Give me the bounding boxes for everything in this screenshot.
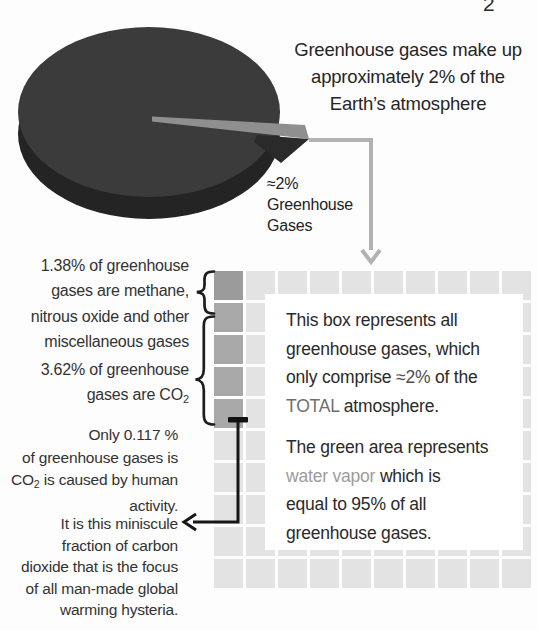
info-text: only comprise	[286, 367, 396, 387]
headline: Greenhouse gases make up approximately 2…	[281, 36, 535, 117]
info-text: which is	[375, 466, 440, 486]
brace-methane	[197, 272, 214, 314]
annotation-line: Only 0.117 %	[0, 424, 178, 447]
pie-slice-front	[254, 135, 309, 163]
pie-subtitle-line: and Other Gases)	[12, 137, 177, 165]
annotation-line: CO2 is caused by human	[0, 469, 178, 495]
annotation-line: 1.38% of greenhouse	[0, 253, 189, 278]
grid-cell	[214, 303, 243, 332]
slice-label: ≈2% Greenhouse Gases	[267, 173, 353, 236]
grid-cell	[374, 559, 403, 588]
annotation-line: 3.62% of greenhouse	[0, 357, 189, 382]
grid-cell	[246, 559, 275, 588]
grid-cell	[214, 527, 243, 556]
grid-cell	[470, 559, 499, 588]
info-text: atmosphere.	[339, 396, 439, 416]
total-highlight: TOTAL	[286, 396, 339, 416]
annotation-text: gases are CO	[87, 386, 183, 403]
grid-cell	[214, 367, 243, 396]
info-line: equal to 95% of all	[286, 490, 521, 519]
grid-cell	[214, 463, 243, 492]
pie-subtitle-line: (Oxygen, Nitrogen	[12, 109, 177, 137]
grid-cell	[342, 559, 371, 588]
info-box-paragraph-2: The green area represents water vapor wh…	[286, 433, 521, 547]
info-line: water vapor which is	[286, 462, 521, 491]
brace-co2	[196, 317, 215, 425]
slice-label-line: Greenhouse	[267, 194, 353, 215]
info-line: The green area represents	[286, 433, 521, 462]
info-box-paragraph-1: This box represents all greenhouse gases…	[286, 306, 521, 420]
grid-cell	[502, 559, 531, 588]
info-line: TOTAL atmosphere.	[286, 392, 521, 421]
info-line: greenhouse gases, which	[286, 335, 521, 364]
annotation-line: gases are methane,	[0, 278, 189, 303]
annotation-human-co2: Only 0.117 % of greenhouse gases is CO2 …	[0, 424, 178, 518]
approx-2pct-highlight: ≈2%	[396, 367, 430, 387]
grid-cell	[214, 335, 243, 364]
infographic-page: 2 Greenhouse gases make up approximately…	[0, 0, 537, 630]
page-number: 2	[483, 0, 494, 16]
info-line: This box represents all	[286, 306, 521, 335]
down-arrow-icon	[362, 250, 380, 262]
annotation-line: gases are CO2	[0, 382, 189, 412]
headline-line: approximately 2% of the	[281, 63, 535, 90]
annotation-line: warming hysteria.	[0, 599, 178, 621]
slice-label-line: Gases	[267, 215, 353, 236]
annotation-line: miscellaneous gases	[0, 329, 189, 354]
annotation-co2: 3.62% of greenhouse gases are CO2	[0, 357, 189, 412]
grid-cell	[214, 271, 243, 300]
left-arrow-icon	[184, 514, 196, 530]
annotation-line: dioxide that is the focus	[0, 556, 178, 578]
info-text: of the	[430, 367, 477, 387]
info-line: greenhouse gases.	[286, 519, 521, 548]
annotation-methane: 1.38% of greenhouse gases are methane, n…	[0, 253, 189, 354]
headline-line: Earth’s atmosphere	[281, 90, 535, 117]
pie-subtitle: (Oxygen, Nitrogen and Other Gases)	[12, 109, 177, 165]
grid-cell	[438, 559, 467, 588]
annotation-text: CO	[11, 471, 34, 488]
headline-line: Greenhouse gases make up	[281, 36, 535, 63]
annotation-line: It is this miniscule	[0, 513, 178, 535]
annotation-text: is caused by human	[40, 471, 178, 488]
slice-label-line: ≈2%	[267, 173, 353, 194]
pie-title: Total Atmosphere	[26, 80, 191, 103]
annotation-line: fraction of carbon	[0, 535, 178, 557]
grid-cell	[214, 431, 243, 460]
annotation-hysteria: It is this miniscule fraction of carbon …	[0, 513, 178, 621]
grid-cell	[214, 559, 243, 588]
annotation-line: of greenhouse gases is	[0, 447, 178, 470]
braces	[196, 272, 215, 425]
annotation-line: of all man-made global	[0, 578, 178, 600]
grid-cell	[278, 559, 307, 588]
info-box: This box represents all greenhouse gases…	[265, 294, 523, 550]
annotation-line: nitrous oxide and other	[0, 304, 189, 329]
grid-cell	[310, 559, 339, 588]
water-vapor-highlight: water vapor	[286, 466, 375, 486]
grid-cell	[214, 495, 243, 524]
subscript: 2	[183, 393, 189, 405]
grid-cell	[214, 399, 243, 428]
grid-cell	[406, 559, 435, 588]
info-line: only comprise ≈2% of the	[286, 363, 521, 392]
